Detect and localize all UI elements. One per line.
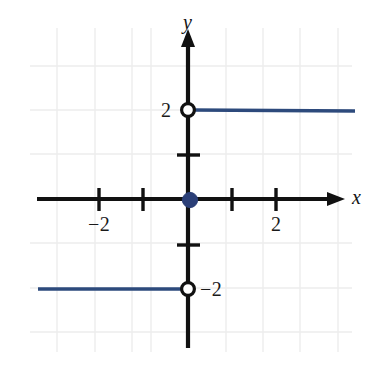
grid-lines (30, 28, 352, 352)
closed-dot-origin (182, 192, 197, 207)
y-tick-label-2: 2 (161, 100, 172, 120)
x-tick-label-2: 2 (271, 214, 282, 234)
open-circle-upper (182, 104, 195, 117)
coordinate-plane (0, 0, 373, 368)
y-axis-label: y (183, 12, 192, 32)
curve-upper-ray (192, 110, 355, 111)
y-tick-label-minus-2: −2 (200, 279, 222, 299)
open-circle-lower (182, 283, 195, 296)
x-tick-label-minus-2: −2 (88, 214, 110, 234)
graph-figure: y x 2 −2 −2 2 (0, 0, 373, 368)
x-axis-label: x (352, 187, 361, 207)
y-axis (181, 29, 195, 348)
x-axis-arrowhead (327, 192, 345, 206)
